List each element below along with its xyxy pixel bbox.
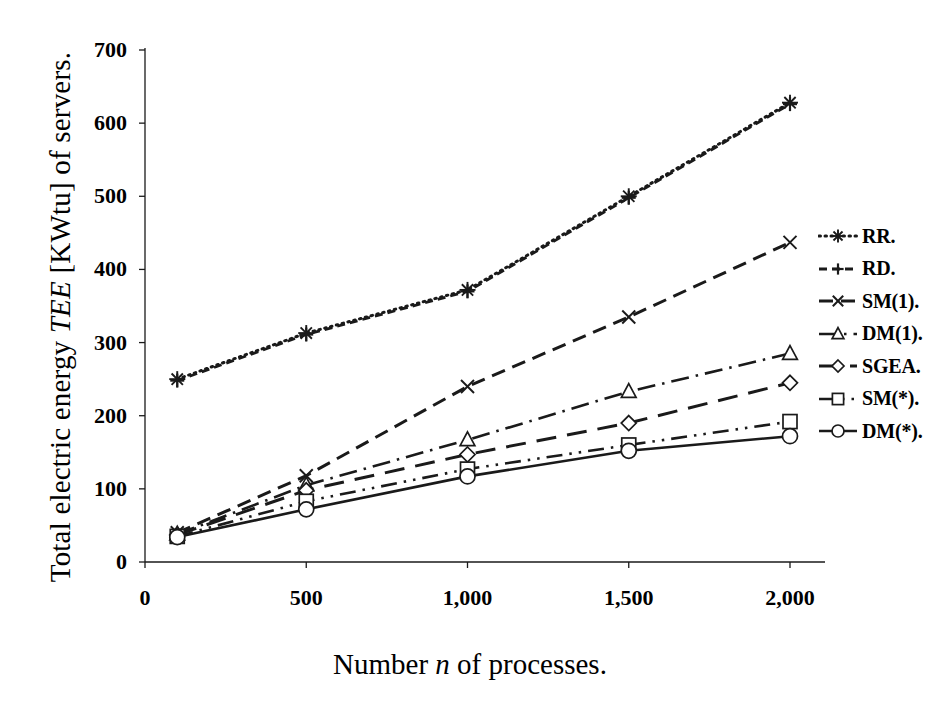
series-RR: [169, 95, 798, 387]
legend-label: SGEA.: [862, 355, 920, 378]
data-point-marker-square: [783, 415, 797, 429]
series-RD: [170, 97, 797, 387]
axis-lines: [139, 48, 825, 568]
data-point-marker-diamond: [783, 375, 798, 390]
data-point-marker-diamond: [832, 360, 844, 372]
chart-legend: RR.RD.SM(1).DM(1).SGEA.SM(*).DM(*).: [818, 222, 945, 450]
data-point-marker-circle: [832, 425, 844, 437]
legend-label: RR.: [862, 225, 895, 248]
legend-sample-cross-icon: [818, 290, 858, 312]
legend-sample-square-icon: [818, 388, 858, 410]
data-point-marker-plus: [832, 263, 843, 274]
series-DM: [170, 429, 798, 545]
legend-item-SM1[interactable]: SM(1).: [818, 287, 945, 315]
legend-item-RD[interactable]: RD.: [818, 255, 945, 283]
data-point-marker-asterisk: [832, 230, 845, 243]
series-line: [177, 422, 790, 537]
data-point-marker-circle: [170, 530, 185, 545]
data-point-marker-triangle: [621, 384, 636, 398]
legend-item-DM[interactable]: DM(*).: [818, 417, 945, 445]
legend-item-RR[interactable]: RR.: [818, 222, 945, 250]
legend-sample-triangle-icon: [818, 323, 858, 345]
series-SM1: [171, 236, 797, 539]
data-point-marker-circle: [299, 502, 314, 517]
legend-sample-plus-icon: [818, 258, 858, 280]
legend-item-DM1[interactable]: DM(1).: [818, 320, 945, 348]
data-point-marker-diamond: [621, 416, 636, 431]
legend-item-SGEA[interactable]: SGEA.: [818, 352, 945, 380]
legend-sample-circle-icon: [818, 420, 858, 442]
data-point-marker-diamond: [460, 447, 475, 462]
chart-figure: Total electric energy TEE [KWtu] of serv…: [0, 0, 945, 708]
legend-label: SM(1).: [862, 290, 919, 313]
data-point-marker-cross: [461, 380, 474, 393]
data-point-marker-plus: [622, 191, 636, 205]
legend-item-SM[interactable]: SM(*).: [818, 385, 945, 413]
series-line: [177, 242, 790, 532]
legend-label: RD.: [862, 257, 895, 280]
data-point-marker-square: [832, 393, 843, 404]
legend-sample-diamond-icon: [818, 355, 858, 377]
data-point-marker-cross: [622, 310, 635, 323]
plot-area: [0, 0, 945, 708]
data-point-marker-plus: [170, 374, 184, 388]
legend-label: DM(1).: [862, 322, 922, 345]
legend-label: DM(*).: [862, 420, 922, 443]
data-point-marker-circle: [621, 443, 636, 458]
series-line: [177, 104, 790, 381]
data-point-marker-circle: [783, 429, 798, 444]
legend-label: SM(*).: [862, 387, 919, 410]
series-line: [177, 103, 790, 379]
data-point-marker-triangle: [783, 346, 798, 360]
data-point-marker-plus: [461, 284, 475, 298]
data-point-marker-cross: [784, 236, 797, 249]
data-point-marker-plus: [783, 97, 797, 111]
data-point-marker-plus: [299, 328, 313, 342]
legend-sample-asterisk-icon: [818, 225, 858, 247]
data-point-marker-circle: [460, 469, 475, 484]
